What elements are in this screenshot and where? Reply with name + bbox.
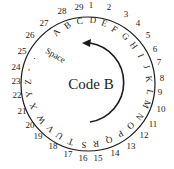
wheel-number: 13 bbox=[127, 141, 137, 151]
wheel-number: 23 bbox=[12, 76, 22, 86]
wheel-number: 6 bbox=[153, 44, 158, 54]
wheel-number: 8 bbox=[160, 73, 165, 83]
wheel-letter: W bbox=[34, 113, 47, 126]
wheel-number: 9 bbox=[158, 87, 163, 97]
wheel-letter-space: Space bbox=[44, 45, 68, 64]
wheel-letter: H bbox=[128, 40, 140, 51]
diagram-title: Code B bbox=[68, 76, 113, 92]
wheel-letter: T bbox=[66, 136, 75, 147]
wheel-number: 5 bbox=[146, 30, 151, 40]
wheel-number: 14 bbox=[111, 148, 121, 158]
wheel-number: 19 bbox=[34, 131, 44, 141]
wheel-letter: P bbox=[116, 128, 125, 139]
wheel-number: 25 bbox=[18, 46, 28, 56]
wheel-number: 21 bbox=[18, 106, 27, 116]
wheel-number: 20 bbox=[26, 120, 36, 130]
wheel-letter: D bbox=[89, 15, 97, 26]
wheel-number: 24 bbox=[12, 62, 22, 72]
wheel-number: 26 bbox=[26, 30, 36, 40]
wheel-number: 16 bbox=[79, 153, 89, 163]
wheel-number: 2 bbox=[107, 2, 112, 12]
wheel-letter: B bbox=[62, 19, 73, 31]
wheel-letter: S bbox=[81, 140, 87, 150]
wheel-number: 27 bbox=[40, 18, 50, 28]
wheel-number: 29 bbox=[75, 2, 85, 12]
arrowhead-icon bbox=[82, 39, 91, 47]
code-wheel-diagram: 1234567891011121314151617181920212223242… bbox=[0, 0, 174, 169]
wheel-number: 7 bbox=[157, 57, 162, 67]
wheel-letter: - bbox=[23, 67, 33, 72]
wheel-letter: N bbox=[133, 111, 145, 123]
wheel-letter: V bbox=[44, 123, 56, 135]
wheel-number: 28 bbox=[58, 6, 68, 16]
wheel-number: 1 bbox=[89, 0, 94, 10]
wheel-letter: O bbox=[125, 120, 137, 132]
wheel-letter: R bbox=[93, 139, 100, 149]
wheel-number: 17 bbox=[64, 149, 74, 159]
wheel-letter: Z bbox=[23, 79, 33, 85]
wheel-letter: K bbox=[144, 75, 155, 83]
wheel-letter: F bbox=[110, 24, 120, 35]
wheel-letter: G bbox=[120, 31, 132, 43]
wheel-number: 15 bbox=[94, 153, 104, 163]
wheel-letter: M bbox=[141, 99, 153, 110]
wheel-number: 12 bbox=[140, 130, 149, 140]
wheel-letter: A bbox=[50, 26, 62, 38]
wheel-number: 4 bbox=[136, 18, 141, 28]
wheel-letter: L bbox=[145, 89, 156, 96]
wheel-letter: J bbox=[142, 64, 153, 70]
wheel-letter: Q bbox=[104, 134, 113, 145]
wheel-letter: X bbox=[27, 101, 39, 111]
wheel-letter: . bbox=[27, 55, 37, 61]
wheel-letter: I bbox=[136, 52, 146, 59]
wheel-letter: U bbox=[54, 130, 65, 142]
wheel-number: 18 bbox=[49, 141, 59, 151]
wheel-letter: E bbox=[100, 17, 109, 28]
wheel-number: 11 bbox=[149, 119, 158, 129]
wheel-number: 3 bbox=[124, 9, 129, 19]
wheel-number: 22 bbox=[13, 90, 22, 100]
wheel-number: 10 bbox=[157, 104, 167, 114]
wheel-letter: Y bbox=[24, 90, 35, 99]
